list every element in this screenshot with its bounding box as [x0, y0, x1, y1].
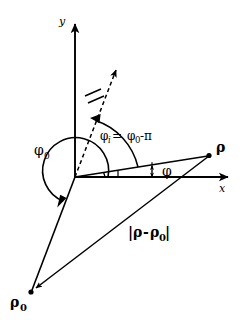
distance-rho-zero: ρ [150, 224, 159, 240]
phi-i-equation-label: φ i = φ 0 -π [100, 129, 152, 145]
phi-zero-label-symbol: φ [34, 142, 44, 158]
label-layer: y x φ 0 φ i = φ 0 -π φ ρ ρ 0 | ρ [0, 0, 248, 328]
distance-close-bar: | [165, 224, 170, 241]
distance-label: | ρ - ρ 0 | [128, 224, 170, 243]
distance-rho: ρ [133, 224, 142, 240]
diagram-figure: y x φ 0 φ i = φ 0 -π φ ρ ρ 0 | ρ [0, 0, 248, 328]
phi-zero-label-subscript: 0 [44, 151, 50, 161]
rho-label: ρ [216, 139, 225, 155]
rho-zero-label-symbol: ρ [10, 294, 19, 310]
phi-i-subscript: i [108, 135, 111, 145]
x-axis-label: x [219, 182, 226, 195]
phi-i-rhs-tail: -π [140, 129, 152, 143]
phi-zero-label: φ 0 [34, 142, 50, 161]
phi-i-equals: = [112, 129, 122, 143]
phi-label: φ [162, 163, 172, 179]
rho-zero-label-subscript: 0 [20, 302, 27, 313]
y-axis-label: y [58, 15, 66, 28]
distance-minus: - [143, 224, 149, 240]
rho-zero-label: ρ 0 [10, 294, 27, 313]
